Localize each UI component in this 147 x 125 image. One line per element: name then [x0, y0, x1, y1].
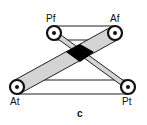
- label-pt: Pt: [122, 97, 131, 107]
- band-af-at: [13, 27, 119, 93]
- pulley-pt: [121, 80, 135, 94]
- pulley-pf: [47, 26, 61, 40]
- pulley-at: [10, 80, 24, 94]
- caption: c: [77, 109, 83, 119]
- label-af: Af: [110, 14, 119, 24]
- pulley-af: [108, 26, 122, 40]
- label-at: At: [10, 97, 19, 107]
- label-pf: Pf: [46, 14, 55, 24]
